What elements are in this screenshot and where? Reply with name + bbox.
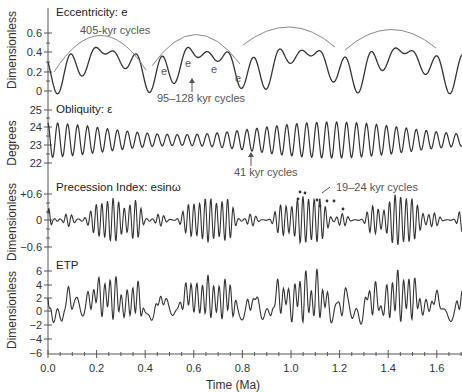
ann-405kyr: 405-kyr cycles [80,24,151,36]
ecc-tick-0.4: 0.4 [27,46,42,58]
ecc-line [48,47,462,94]
etp-tick-n6: −6 [29,347,42,359]
x-tick-labels: 0.0 0.2 0.4 0.6 0.8 1.0 1.2 1.4 1.6 [40,362,444,374]
etp-tick-2: 2 [36,292,42,304]
x-tick-0.2: 0.2 [89,362,104,374]
x-tick-0.4: 0.4 [138,362,153,374]
arrow-95-head [189,78,195,83]
ecc-tick-0.2: 0.2 [27,66,42,78]
etp-tick-4: 4 [36,279,42,291]
milankovitch-chart: Dimensionless Degrees Dimensionless Dime… [0,0,462,392]
etp-title: ETP [56,259,79,271]
prec-title: Precession Index: esinω [56,181,181,193]
ann-95-128kyr: 95–128 kyr cycles [157,92,246,104]
prec-line [48,195,462,245]
prec-tick-neg: −0.6 [20,241,42,253]
ann-19-24kyr: 19–24 kyr cycles [336,181,418,193]
ecc-ylabel: Dimensionless [5,11,19,89]
obl-tick-24: 24 [30,121,42,133]
ecc-title: Eccentricity: e [56,6,128,18]
x-axis-label: Time (Ma) [206,378,260,392]
etp-tick-6: 6 [36,265,42,277]
obl-line [48,122,462,158]
obl-ylabel: Degrees [5,120,19,165]
obl-tick-25: 25 [30,104,42,116]
ann-e1: e [161,65,167,77]
arrow-41-head [248,152,254,157]
prec-tick-pos: +0.6 [20,188,42,200]
prec-tick-0: 0 [36,214,42,226]
x-tick-1.2: 1.2 [332,362,347,374]
etp-tick-n2: −2 [29,319,42,331]
etp-line [48,269,462,324]
obl-tick-23: 23 [30,139,42,151]
ann-e4: e [235,72,241,84]
x-tick-1.4: 1.4 [381,362,396,374]
ecc-tick-0.6: 0.6 [27,27,42,39]
x-tick-1.6: 1.6 [429,362,444,374]
x-tick-0.6: 0.6 [186,362,201,374]
etp-tick-n4: −4 [29,333,42,345]
x-tick-1.0: 1.0 [283,362,298,374]
x-tick-0.8: 0.8 [235,362,250,374]
etp-tick-0: 0 [36,305,42,317]
obl-title: Obliquity: ε [56,103,112,115]
x-tick-0.0: 0.0 [40,362,55,374]
arrow-19 [322,187,330,193]
ann-41kyr: 41 kyr cycles [234,166,298,178]
ann-e2: e [185,57,191,69]
obl-tick-22: 22 [30,157,42,169]
etp-ylabel: Dimensionless [5,271,19,349]
prec-ylabel: Dimensionless [5,183,19,261]
ann-e3: e [211,63,217,75]
ecc-tick-0: 0 [36,85,42,97]
